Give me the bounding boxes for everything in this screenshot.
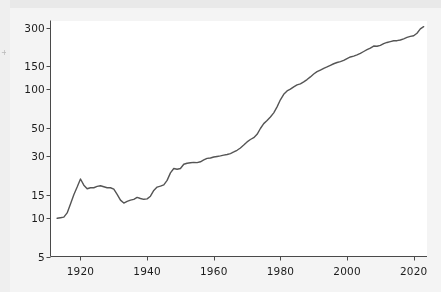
y-tick-label: 300 — [14, 22, 45, 34]
y-tick-label: 50 — [14, 122, 45, 134]
y-tick-label: 150 — [14, 60, 45, 72]
y-tick-label: 10 — [14, 212, 45, 224]
x-tick-label: 1960 — [194, 265, 234, 277]
y-tick-label: 5 — [14, 251, 45, 263]
cropped-edge-fragment: + — [1, 50, 6, 56]
y-tick-label: 15 — [14, 189, 45, 201]
x-tick-label: 2020 — [394, 265, 434, 277]
line-chart-canvas — [0, 0, 441, 292]
x-tick-label: 1940 — [127, 265, 167, 277]
x-tick-label: 1980 — [260, 265, 300, 277]
y-tick-label: 30 — [14, 150, 45, 162]
y-tick-label: 100 — [14, 83, 45, 95]
chart-figure: 300150100503015105 192019401960198020002… — [0, 0, 441, 292]
x-tick-label: 1920 — [60, 265, 100, 277]
x-tick-label: 2000 — [327, 265, 367, 277]
